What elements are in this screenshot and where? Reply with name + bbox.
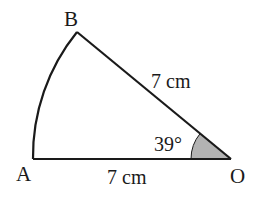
label-side-OA: 7 cm [107,166,147,188]
sector-diagram: B A O 7 cm 39° 7 cm [0,0,262,204]
label-O: O [230,164,245,188]
label-A: A [16,162,32,186]
label-angle: 39° [154,133,182,155]
label-B: B [64,7,78,31]
label-side-OB: 7 cm [151,70,191,92]
arc-AB [33,32,77,159]
